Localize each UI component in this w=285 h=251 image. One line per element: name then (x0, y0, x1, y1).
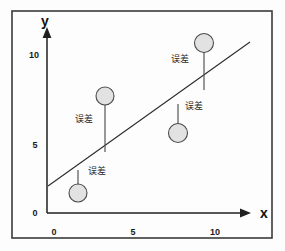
scatter-plot-figure: y x 10 5 0 0 5 10 误差 误差 误差 误差 (0, 0, 285, 251)
x-axis-title: x (260, 205, 268, 221)
y-tick-label-5: 5 (32, 140, 37, 150)
x-tick-label-0: 0 (51, 227, 56, 237)
y-axis-title: y (41, 13, 49, 29)
chart-canvas: y x 10 5 0 0 5 10 误差 误差 误差 误差 (0, 0, 285, 251)
figure-border (12, 11, 272, 238)
x-tick-label-5: 5 (130, 227, 135, 237)
y-tick-label-0: 0 (32, 208, 37, 218)
residual-label-4: 误差 (171, 53, 189, 64)
data-point-3 (169, 124, 188, 143)
y-tick-label-10: 10 (29, 50, 39, 60)
x-tick-label-10: 10 (210, 227, 220, 237)
data-point-2 (96, 87, 114, 105)
data-point-1 (69, 184, 87, 202)
residual-label-3: 误差 (185, 100, 203, 111)
residual-label-2: 误差 (75, 113, 93, 124)
residual-label-1: 误差 (88, 165, 106, 176)
data-point-4 (195, 34, 214, 53)
x-axis-arrowhead (240, 209, 251, 218)
